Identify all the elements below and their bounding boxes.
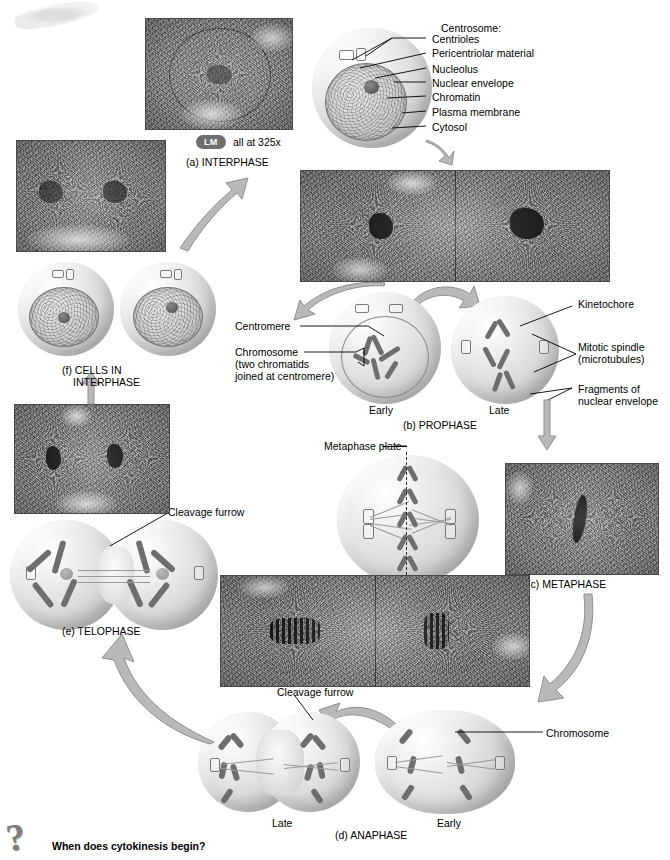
stage-label-e: (e) TELOPHASE bbox=[62, 625, 141, 638]
micrograph-anaphase-pair bbox=[220, 575, 530, 687]
label-chromosome-detail-2: joined at centromere) bbox=[235, 370, 334, 383]
cell-cycle-figure: LM all at 325x (a) INTERPHASE bbox=[0, 0, 670, 860]
anaphase-sub-late: Late bbox=[272, 817, 292, 830]
label-cytosol: Cytosol bbox=[432, 121, 467, 134]
question-mark-icon: ? bbox=[3, 817, 27, 857]
label-nuclear-envelope: Nuclear envelope bbox=[432, 77, 514, 90]
label-mitotic-spindle: Mitotic spindle bbox=[578, 341, 645, 354]
lm-badge: LM bbox=[196, 135, 226, 149]
label-centrioles: Centrioles bbox=[432, 33, 479, 46]
label-cleavage-furrow-telophase: Cleavage furrow bbox=[168, 506, 244, 519]
micrograph-cells-in-interphase bbox=[16, 140, 166, 252]
micrograph-interphase bbox=[145, 18, 293, 130]
arrow-to-interphase bbox=[176, 166, 252, 252]
label-chromosome-prophase: Chromosome bbox=[235, 346, 298, 359]
micrograph-telophase bbox=[14, 404, 170, 514]
diagram-metaphase-cell bbox=[337, 455, 479, 585]
label-chromatin: Chromatin bbox=[432, 91, 480, 104]
anaphase-leader-lines bbox=[275, 696, 605, 756]
arrow-metaphase-to-anaphase bbox=[520, 594, 640, 704]
arrow-interphase-to-prophase bbox=[425, 136, 455, 166]
micrograph-prophase-pair bbox=[300, 170, 610, 282]
review-question-text: When does cytokinesis begin? bbox=[52, 840, 205, 852]
label-chromosome-detail-1: (two chromatids bbox=[235, 358, 309, 371]
stage-label-f-line2: INTERPHASE bbox=[73, 376, 140, 389]
diagram-daughter-cell-left bbox=[18, 262, 114, 356]
arrow-prophase-to-metaphase bbox=[537, 400, 557, 450]
magnification-note: all at 325x bbox=[233, 136, 281, 149]
metaphase-plate-axis bbox=[406, 452, 407, 595]
stage-label-f-line1: (f) CELLS IN bbox=[62, 364, 122, 377]
label-nuclear-envelope-fragments-2: nuclear envelope bbox=[578, 395, 658, 408]
decorative-ornament bbox=[13, 0, 101, 32]
label-plasma-membrane: Plasma membrane bbox=[432, 106, 520, 119]
stage-label-d: (d) ANAPHASE bbox=[335, 829, 407, 842]
anaphase-sub-early: Early bbox=[437, 817, 461, 830]
label-nucleolus: Nucleolus bbox=[432, 63, 478, 76]
arrow-anaphase-to-telophase bbox=[88, 632, 218, 744]
label-pericentriolar-material: Pericentriolar material bbox=[432, 47, 534, 60]
micrograph-metaphase bbox=[505, 463, 659, 575]
diagram-daughter-cell-right bbox=[120, 262, 216, 356]
label-mitotic-spindle-detail: (microtubules) bbox=[578, 353, 645, 366]
label-metaphase-plate: Metaphase plate bbox=[324, 440, 402, 453]
label-cleavage-furrow-anaphase: Cleavage furrow bbox=[277, 686, 353, 699]
label-kinetochore: Kinetochore bbox=[578, 298, 634, 311]
label-centromere: Centromere bbox=[235, 320, 290, 333]
stage-label-c: (c) METAPHASE bbox=[527, 578, 606, 591]
label-nuclear-envelope-fragments-1: Fragments of bbox=[578, 383, 640, 396]
label-chromosome-anaphase: Chromosome bbox=[546, 727, 609, 740]
